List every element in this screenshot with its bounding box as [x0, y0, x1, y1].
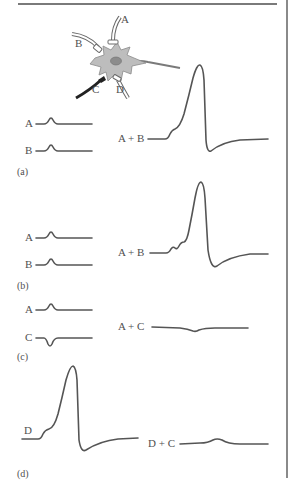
panel-a-combined-label: A + B [118, 133, 144, 144]
panel-c-tag: (c) [17, 352, 28, 362]
trace-a-input-b [36, 145, 92, 151]
neuron-label-d: D [116, 84, 124, 95]
panel-d-combined-label: D + C [148, 438, 175, 449]
panel-a-input-a-label: A [25, 118, 33, 129]
trace-a-combined [148, 65, 268, 151]
panel-a-tag: (a) [17, 167, 28, 177]
trace-d-input-d [22, 366, 138, 451]
terminal-a [108, 40, 118, 44]
neuron-label-c: C [92, 84, 99, 95]
panel-d-input-d-label: D [24, 425, 32, 436]
panel-d-tag: (d) [17, 469, 29, 479]
trace-c-input-c [36, 338, 92, 346]
trace-d-combined [180, 439, 268, 444]
trace-b-input-a [36, 232, 92, 238]
neuron-diagram [72, 17, 180, 98]
trace-c-input-a [36, 304, 92, 310]
trace-a-input-a [36, 118, 92, 124]
neuron-label-a: A [121, 14, 129, 25]
panel-c-combined-label: A + C [118, 321, 144, 332]
synaptic-summation-figure [0, 0, 290, 488]
panel-c-input-c-label: C [25, 332, 32, 343]
trace-b-input-b [36, 259, 92, 265]
neuron-nucleus [111, 57, 122, 65]
panel-b-combined-label: A + B [118, 247, 144, 258]
panel-b-input-a-label: A [25, 232, 33, 243]
panel-b-tag: (b) [17, 281, 29, 291]
trace-c-combined [152, 327, 248, 331]
panel-a-input-b-label: B [25, 145, 32, 156]
panel-c-input-a-label: A [25, 304, 33, 315]
neuron-label-b: B [75, 38, 82, 49]
panel-b-input-b-label: B [25, 259, 32, 270]
trace-b-combined [150, 182, 268, 267]
